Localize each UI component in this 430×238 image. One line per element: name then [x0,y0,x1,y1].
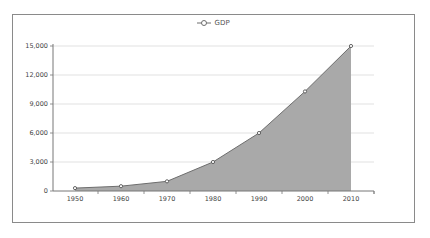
data-point [257,131,260,134]
data-point [303,90,306,93]
data-point [119,185,122,188]
data-point [73,187,76,190]
y-tick-label: 9,000 [29,100,48,108]
y-tick-label: 15,000 [25,42,48,50]
y-tick-label: 0 [44,187,48,195]
x-tick-label: 1960 [113,195,130,203]
x-tick-label: 2010 [343,195,360,203]
data-point [165,180,168,183]
data-point [349,44,352,47]
y-tick-label: 12,000 [25,71,48,79]
x-tick-label: 1980 [205,195,222,203]
plot-area: 03,0006,0009,00012,00015,000195019601970… [0,0,430,238]
data-point [211,160,214,163]
x-tick-label: 1990 [251,195,268,203]
x-tick-label: 1950 [67,195,84,203]
x-tick-label: 2000 [297,195,314,203]
y-tick-label: 3,000 [29,158,48,166]
gdp-area [75,46,351,191]
y-tick-label: 6,000 [29,129,48,137]
x-tick-label: 1970 [159,195,176,203]
